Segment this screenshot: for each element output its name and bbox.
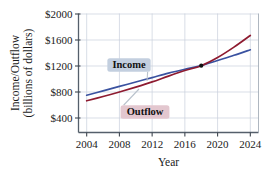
x-tick-label: 2004: [76, 138, 99, 150]
x-axis-title: Year: [158, 156, 179, 168]
callout-outflow: Outflow: [121, 105, 170, 119]
x-tick-label: 2020: [207, 138, 230, 150]
y-axis-title-line-1: Income/Outflow: [9, 34, 21, 111]
intersection-marker: [199, 64, 203, 68]
y-tick-label: $800: [51, 86, 74, 98]
chart-figure: $400$800$1200$1600$2000 2004200820122016…: [0, 0, 269, 172]
x-tick-label: 2016: [174, 138, 197, 150]
income-outflow-line-chart: $400$800$1200$1600$2000 2004200820122016…: [0, 0, 269, 172]
x-tick-label: 2012: [141, 138, 163, 150]
intersection-dot: [199, 64, 203, 68]
chart-background: [0, 0, 269, 172]
y-tick-label: $1200: [45, 60, 73, 72]
y-tick-label: $400: [51, 112, 74, 124]
x-tick-label: 2024: [239, 138, 262, 150]
callout-label-text: Income: [112, 59, 146, 70]
y-tick-label: $1600: [45, 34, 73, 46]
x-tick-label: 2008: [108, 138, 131, 150]
callout-label-text: Outflow: [127, 106, 164, 117]
callout-income: Income: [107, 58, 150, 72]
y-axis-title-line-2: (billions of dollars): [22, 28, 35, 117]
y-tick-label: $2000: [45, 8, 73, 20]
callout-connector-income: [147, 72, 148, 81]
